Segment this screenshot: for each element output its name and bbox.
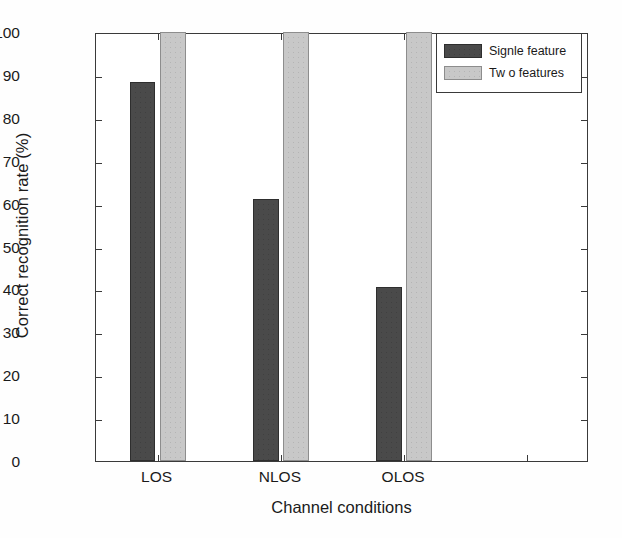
legend-label: Tw o features	[489, 66, 564, 80]
x-axis-tick-label: OLOS	[358, 468, 448, 486]
legend-item: Tw o features	[444, 62, 574, 84]
x-axis-tick-mark	[158, 34, 159, 40]
plot-inner	[96, 34, 587, 461]
bar	[160, 32, 186, 461]
x-axis-tick-mark	[281, 455, 282, 461]
y-axis-tick-mark	[581, 206, 587, 207]
y-axis-tick-mark	[96, 77, 102, 78]
y-axis-tick-mark	[96, 420, 102, 421]
y-axis-tick-label: 30	[0, 324, 20, 342]
legend-swatch	[444, 44, 482, 58]
plot-area	[95, 33, 588, 462]
x-axis-tick-mark	[404, 34, 405, 40]
y-axis-tick-label: 0	[0, 453, 20, 471]
y-axis-tick-mark	[581, 291, 587, 292]
y-axis-tick-mark	[581, 420, 587, 421]
legend-item: Signle feature	[444, 40, 574, 62]
y-axis-tick-label: 20	[0, 367, 20, 385]
y-axis-tick-mark	[581, 377, 587, 378]
bar	[406, 32, 432, 461]
legend-swatch	[444, 66, 482, 80]
x-axis-tick-label: NLOS	[235, 468, 325, 486]
legend-label: Signle feature	[489, 44, 566, 58]
bar-chart-figure: Correct recognition rate (%) 01020304050…	[0, 0, 622, 538]
legend: Signle featureTw o features	[436, 33, 582, 93]
x-axis-tick-label: LOS	[112, 468, 202, 486]
bar	[376, 287, 402, 461]
y-axis-tick-label: 70	[0, 153, 20, 171]
y-axis-tick-label: 100	[0, 24, 20, 42]
y-axis-tick-label: 60	[0, 196, 20, 214]
bar	[283, 32, 309, 461]
y-axis-tick-mark	[581, 163, 587, 164]
y-axis-tick-label: 80	[0, 110, 20, 128]
y-axis-tick-mark	[96, 249, 102, 250]
bar	[130, 82, 156, 461]
y-axis-tick-mark	[96, 163, 102, 164]
y-axis-tick-mark	[581, 120, 587, 121]
y-axis-tick-mark	[96, 377, 102, 378]
y-axis-tick-label: 50	[0, 239, 20, 257]
y-axis-tick-label: 90	[0, 67, 20, 85]
x-axis-tick-mark	[281, 34, 282, 40]
y-axis-tick-label: 10	[0, 410, 20, 428]
x-axis-tick-mark	[158, 455, 159, 461]
y-axis-tick-label: 40	[0, 281, 20, 299]
y-axis-tick-mark	[96, 334, 102, 335]
x-axis-title: Channel conditions	[95, 498, 588, 517]
y-axis-tick-mark	[96, 291, 102, 292]
y-axis-tick-mark	[581, 249, 587, 250]
y-axis-tick-mark	[96, 206, 102, 207]
y-axis-tick-mark	[96, 120, 102, 121]
bar	[253, 199, 279, 461]
x-axis-tick-mark	[404, 455, 405, 461]
x-axis-tick-mark	[527, 455, 528, 461]
y-axis-tick-mark	[581, 334, 587, 335]
